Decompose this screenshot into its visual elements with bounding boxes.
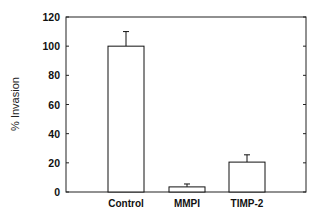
- bar-control: [108, 46, 144, 192]
- y-tick-label: 60: [48, 99, 60, 111]
- bars: [108, 32, 265, 192]
- bar-timp-2: [229, 162, 265, 192]
- y-tick-label: 20: [48, 157, 60, 169]
- y-tick-label: 0: [54, 186, 60, 198]
- y-tick-label: 80: [48, 69, 60, 81]
- y-tick-label: 40: [48, 128, 60, 140]
- bar-chart: 020406080100120 ControlMMPITIMP-2 % Inva…: [0, 0, 322, 214]
- plot-frame: [66, 17, 306, 192]
- bar-mmpi: [169, 187, 205, 192]
- y-tick-label: 120: [42, 11, 60, 23]
- y-axis-ticks: 020406080100120: [42, 11, 306, 198]
- y-axis-title: % Invasion: [9, 77, 21, 131]
- x-axis-labels: ControlMMPITIMP-2: [108, 198, 264, 209]
- y-tick-label: 100: [42, 40, 60, 52]
- x-category-label: Control: [108, 198, 144, 209]
- plot-border: [66, 17, 306, 192]
- x-category-label: MMPI: [174, 198, 200, 209]
- x-category-label: TIMP-2: [231, 198, 264, 209]
